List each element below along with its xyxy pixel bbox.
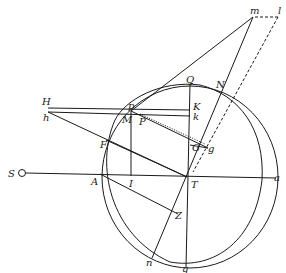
label-k: k	[193, 111, 199, 122]
line-H-K	[48, 108, 190, 110]
label-a: a	[274, 172, 280, 183]
line-h-k	[48, 112, 190, 116]
label-l: l	[278, 5, 281, 16]
label-m: m	[250, 5, 259, 16]
label-N: N	[215, 79, 226, 90]
label-T: T	[191, 179, 199, 190]
line-m-n	[152, 17, 253, 258]
label-Z: Z	[174, 210, 183, 221]
label-F: F	[99, 139, 108, 150]
label-G: G	[192, 142, 200, 153]
label-H: H	[41, 96, 51, 107]
label-g: g	[208, 143, 214, 154]
label-I: I	[128, 178, 134, 189]
label-n: n	[146, 257, 152, 268]
label-h: h	[43, 112, 49, 123]
sun-circle	[19, 170, 26, 177]
line-S-a	[26, 173, 277, 178]
line-l-g	[193, 17, 278, 172]
line-F-T	[106, 140, 187, 177]
label-P: P	[138, 116, 146, 127]
label-p: p	[128, 100, 135, 111]
geometric-diagram: S A I T a H h p M P Q K k N G g F Z n q …	[0, 0, 286, 273]
label-Q: Q	[186, 74, 194, 85]
label-S: S	[8, 168, 15, 179]
label-M: M	[121, 114, 133, 125]
label-q: q	[182, 263, 188, 273]
label-A: A	[90, 176, 98, 187]
